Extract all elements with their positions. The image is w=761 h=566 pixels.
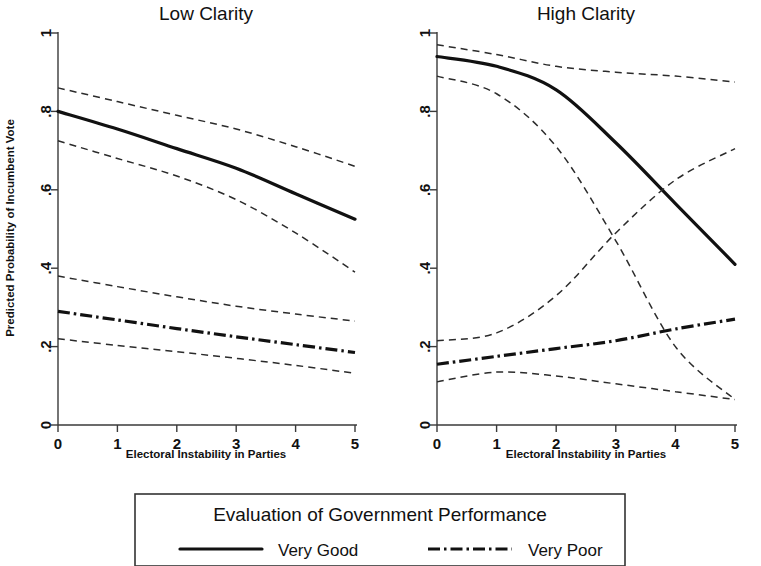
y-tick-label: 0 — [416, 421, 433, 429]
panel-title-high: High Clarity — [537, 3, 636, 24]
series-line — [437, 319, 735, 364]
chart-canvas: Low Clarity 0.2.4.6.81012345 Electoral I… — [0, 0, 761, 566]
figure-root: Low Clarity 0.2.4.6.81012345 Electoral I… — [0, 0, 761, 566]
x-tick-label: 5 — [351, 435, 359, 452]
series-line — [58, 141, 355, 272]
y-tick-label: 1 — [37, 29, 54, 37]
y-tick-label: .2 — [416, 340, 433, 353]
curves-low — [58, 88, 355, 373]
panel-title-low: Low Clarity — [159, 3, 253, 24]
legend-label-very-poor: Very Poor — [528, 541, 603, 560]
x-tick-label: 0 — [433, 435, 441, 452]
series-line — [58, 311, 355, 352]
x-tick-label: 1 — [492, 435, 500, 452]
y-tick-label: .4 — [37, 261, 54, 274]
x-tick-label: 0 — [54, 435, 62, 452]
x-tick-label: 4 — [671, 435, 680, 452]
panel-low-clarity: Low Clarity 0.2.4.6.81012345 Electoral I… — [37, 3, 359, 460]
y-tick-label: .2 — [37, 340, 54, 353]
x-tick-label: 4 — [291, 435, 300, 452]
x-axis-label-high: Electoral Instability in Parties — [506, 448, 666, 460]
legend-title: Evaluation of Government Performance — [213, 504, 547, 525]
axis-high: 0.2.4.6.81012345 — [416, 29, 739, 452]
legend-entry-very-poor: Very Poor — [428, 541, 603, 560]
y-tick-label: .8 — [37, 105, 54, 118]
series-line — [437, 76, 735, 399]
y-tick-label: 0 — [37, 421, 54, 429]
y-axis-label: Predicted Probability of Incumbent Vote — [4, 119, 16, 337]
legend-label-very-good: Very Good — [278, 541, 358, 560]
series-line — [58, 88, 355, 166]
y-tick-label: .6 — [416, 184, 433, 197]
y-tick-label: .4 — [416, 261, 433, 274]
series-line — [437, 372, 735, 400]
y-tick-label: .6 — [37, 184, 54, 197]
series-line — [58, 276, 355, 321]
x-axis-label-low: Electoral Instability in Parties — [126, 448, 286, 460]
axis-low: 0.2.4.6.81012345 — [37, 29, 359, 452]
curves-high — [437, 45, 735, 400]
panel-high-clarity: High Clarity 0.2.4.6.81012345 Electoral … — [416, 3, 739, 460]
y-tick-label: 1 — [416, 29, 433, 37]
legend: Evaluation of Government Performance Ver… — [135, 494, 625, 566]
x-tick-label: 1 — [113, 435, 121, 452]
x-tick-label: 5 — [731, 435, 739, 452]
y-tick-label: .8 — [416, 105, 433, 118]
series-line — [437, 57, 735, 265]
series-line — [437, 149, 735, 341]
legend-entry-very-good: Very Good — [180, 541, 358, 560]
series-line — [58, 111, 355, 219]
series-line — [58, 339, 355, 374]
